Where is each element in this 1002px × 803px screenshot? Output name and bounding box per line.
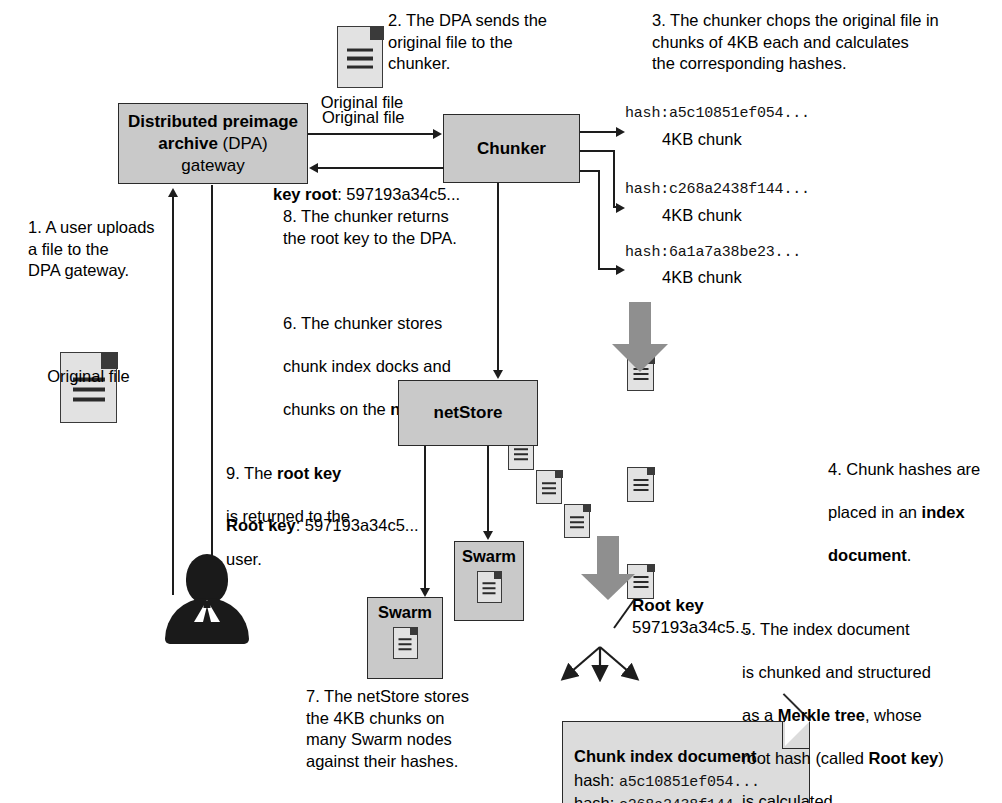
edge-chunker-to-dpa [318,167,444,169]
root-key-title: Root key [632,596,704,616]
step-4-text: 4. Chunk hashes are placed in an index d… [828,437,1002,566]
user-avatar [148,554,266,649]
step-5-part-c2: , whose [865,706,922,724]
edge-chunk-1-arrowhead [616,127,625,137]
edge-chunker-to-chunk-3-h1 [580,170,600,172]
fat-arrow-shaft [597,536,619,574]
swarm-node-box-left[interactable]: Swarm [367,597,443,679]
edge-chunker-to-dpa-arrowhead [309,163,318,173]
step-5-merkle-bold: Merkle tree [778,706,865,724]
chunk-label-1: 4KB chunk [662,129,742,149]
dpa-line-1: Distributed preimage [128,112,298,131]
edge-label-original-file: Original file [322,107,405,127]
dpa-gateway-box[interactable]: Distributed preimage archive (DPA) gatew… [118,103,308,184]
chunk-hash-3: hash:6a1a7a38be23... [625,243,801,262]
doc-lines [514,446,528,461]
root-key-bold: Root key [226,516,296,534]
edge-chunker-to-chunk-2-v [613,150,615,207]
chunk-label-2: 4KB chunk [662,205,742,225]
chunk-label-3: 4KB chunk [662,267,742,287]
step-4-part-b: placed in an [828,503,922,521]
doc-lines [483,580,496,595]
key-root-value: : 597193a34c5... [337,185,460,203]
chunker-box[interactable]: Chunker [443,114,580,183]
edge-chunker-to-chunk-1 [580,131,618,133]
step-5-part-b: is chunked and structured [742,663,931,681]
edge-label-key-root: key root: 597193a34c5... [273,184,460,204]
step-4-index-bold: index [922,503,965,521]
chunk-icon-2 [627,467,654,502]
dpa-line-2-reg: (DPA) [218,134,268,153]
step-5-part-d2: ) [938,749,944,767]
step-5-part-d1: root hash (called [742,749,869,767]
key-root-bold: key root [273,185,337,203]
step-9-text: 9. The root key is returned to the user. [226,441,401,570]
step-6-part-b: chunk index docks and [283,357,451,375]
edge-chunk-2-arrowhead [616,203,625,213]
edge-dpa-to-chunker [308,133,435,135]
user-head-icon [186,554,228,604]
step-4-part-c: . [907,546,912,564]
original-file-caption-left: Original file [36,366,141,386]
index-row-key-2: hash: [574,794,619,803]
edge-chunker-to-chunk-2-h1 [580,150,615,152]
step-2-text: 2. The DPA sends the original file to th… [388,10,603,75]
chunk-doc-icon-3 [564,504,590,538]
original-file-icon-top [337,26,383,88]
root-key-edge-label: Root key: 597193a34c5... [226,515,419,535]
chunk-hash-1: hash:a5c10851ef054... [625,104,810,123]
step-6-part-c: chunks on the [283,400,390,418]
index-row-key-1: hash: [574,771,619,789]
dpa-line-2-bold: archive [158,134,218,153]
index-row-value-1: a5c10851ef054... [619,774,760,791]
step-9-root-key-bold: root key [277,464,341,482]
step-5-text: 5. The index document is chunked and str… [742,597,997,803]
step-4-part-a: 4. Chunk hashes are [828,460,980,478]
merkle-tree-edges [520,645,680,690]
step-9-part-a: 9. The [226,464,277,482]
edge-chunker-to-chunk-3-v [598,170,600,270]
edge-netstore-to-swarm-right [487,446,489,532]
swarm-chunk-icon-right [477,571,502,603]
edge-netstore-to-swarm-left [424,446,426,589]
edge-chunk-3-arrowhead [616,265,625,275]
root-key-value: : 597193a34c5... [296,516,419,534]
user-tie [202,606,212,626]
swarm-left-label: Swarm [378,602,432,622]
step-8-text: 8. The chunker returns the root key to t… [283,206,513,249]
edge-user-to-dpa [172,196,174,595]
step-3-text: 3. The chunker chops the original file i… [652,10,997,75]
netstore-label: netStore [434,402,503,424]
fat-arrow-head [581,574,635,600]
step-5-rootkey-bold: Root key [869,749,939,767]
doc-lines [570,514,584,529]
root-key-hash: 597193a34c5... [632,618,749,638]
edge-chunker-to-netstore [497,183,499,371]
step-5-part-e: is calculated. [742,792,837,803]
edge-chunker-to-netstore-arrowhead [493,370,503,379]
dpa-gateway-label: Distributed preimage archive (DPA) gatew… [128,111,298,177]
doc-lines [347,46,373,72]
index-row-value-2: c268a2438f144... [619,797,760,803]
chunk-hash-2: hash:c268a2438f144... [625,180,810,199]
chunk-doc-icon-2 [536,470,562,504]
original-file-icon-left [60,352,117,423]
edge-netstore-to-swarm-left-arrowhead [420,588,430,597]
step-5-part-c1: as a [742,706,778,724]
swarm-right-label: Swarm [462,546,516,566]
dpa-line-3: gateway [181,156,244,175]
fat-arrow-index-to-merkle [580,536,636,600]
edge-netstore-to-swarm-right-arrowhead [483,531,493,540]
netstore-box[interactable]: netStore [398,380,538,446]
doc-lines [399,636,412,651]
swarm-node-box-right[interactable]: Swarm [454,541,524,621]
edge-dpa-to-chunker-arrowhead [433,129,442,139]
step-7-text: 7. The netStore stores the 4KB chunks on… [306,686,546,772]
fat-arrow-head [612,344,668,372]
doc-lines [542,480,556,495]
fat-arrow-shaft [629,302,651,344]
step-6-part-a: 6. The chunker stores [283,314,442,332]
root-key-leader-line [612,598,642,630]
edge-dpa-to-user [211,185,213,570]
edge-user-to-dpa-arrowhead [168,188,178,197]
